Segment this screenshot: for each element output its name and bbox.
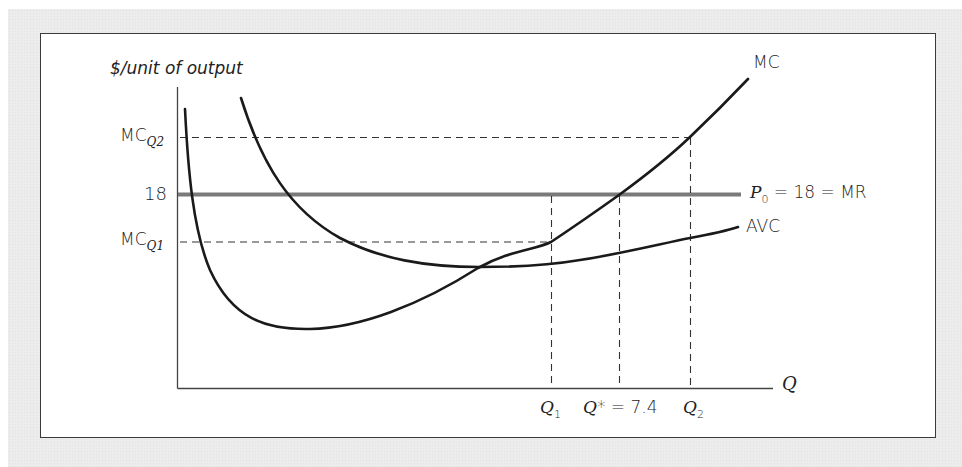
tick-qstar-rest: * = 7.4 [597, 397, 658, 417]
x-axis-title: Q [782, 373, 797, 394]
y-axis-title: $/unit of output [110, 58, 243, 78]
tick-mcq2-main: MC [120, 125, 147, 145]
tick-mcq2: MCQ2 [120, 125, 164, 145]
tick-mcq1: MCQ1 [120, 229, 164, 249]
avc-label: AVC [746, 216, 780, 236]
tick-mcq1-sub: Q1 [147, 239, 164, 253]
mc-curve [185, 79, 748, 329]
tick-mcq2-sub: Q2 [147, 135, 164, 149]
tick-qstar: Q* = 7.4 [583, 397, 658, 417]
price-line-sub: 0 [761, 193, 768, 206]
tick-q1-main: Q [540, 397, 554, 417]
tick-qstar-main: Q [583, 397, 597, 417]
tick-q2-main: Q [683, 397, 697, 417]
mc-label: MC [753, 52, 780, 72]
tick-q2: Q2 [683, 397, 704, 417]
price-line-label: P0 = 18 = MR [750, 182, 867, 202]
tick-q1: Q1 [540, 397, 561, 417]
tick-mcq1-main: MC [120, 229, 147, 249]
tick-18: 18 [144, 183, 167, 204]
tick-q1-sub: 1 [554, 408, 561, 421]
price-line-rest: = 18 = MR [768, 182, 866, 202]
price-line-p: P [750, 182, 761, 202]
tick-q2-sub: 2 [697, 408, 704, 421]
